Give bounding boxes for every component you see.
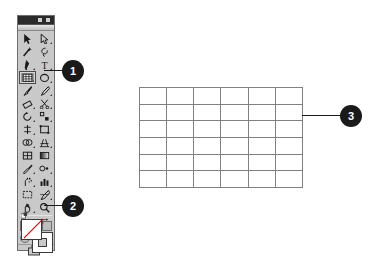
lasso-tool[interactable] [36,45,53,58]
magic-wand-tool-icon [22,46,33,57]
close-widget-icon[interactable] [46,18,50,22]
zoom-tool[interactable] [36,201,53,214]
grid-cell [276,138,303,155]
ellipse-tool[interactable] [36,71,53,84]
grid-cell [140,105,167,122]
tool-flyout-indicator-icon [50,172,52,174]
grid-cell [221,155,248,172]
grid-cell [167,88,194,105]
selection-tool[interactable] [19,32,36,45]
grid-cell [221,88,248,105]
pen-tool[interactable] [19,58,36,71]
pencil-tool-icon [39,85,50,96]
callout-badge-1: 1 [62,60,84,82]
grid-cell [140,155,167,172]
tool-flyout-indicator-icon [50,94,52,96]
column-graph-tool-icon [39,176,50,187]
symbol-sprayer-tool-icon [22,176,33,187]
eraser-tool-icon [22,98,33,109]
grid-cell [276,105,303,122]
column-graph-tool[interactable] [36,175,53,188]
fill-swatch[interactable] [21,219,42,240]
grid-cell [221,138,248,155]
swap-fill-stroke-icon[interactable] [42,218,50,226]
grid-cell [140,88,167,105]
tool-flyout-indicator-icon [50,107,52,109]
eyedropper-tool[interactable] [19,162,36,175]
scissors-tool[interactable] [36,97,53,110]
grid-cell [276,171,303,188]
direct-selection-tool[interactable] [36,32,53,45]
tool-flyout-indicator-icon [50,120,52,122]
toolbox-title-bar[interactable] [18,16,54,25]
tool-flyout-indicator-icon [33,107,35,109]
artboard-tool[interactable] [19,188,36,201]
magic-wand-tool[interactable] [19,45,36,58]
paintbrush-tool[interactable] [19,84,36,97]
scissors-tool-icon [39,98,50,109]
scale-tool[interactable] [36,110,53,123]
grid-cell [194,138,221,155]
toolbox-panel[interactable]: T [17,15,55,251]
rectangular-grid-object[interactable] [139,87,303,188]
selection-tool-icon [22,33,33,44]
grid-cell [167,171,194,188]
symbol-sprayer-tool[interactable] [19,175,36,188]
grid-cell [221,121,248,138]
type-tool-icon: T [39,59,50,70]
slice-tool[interactable] [36,188,53,201]
tool-flyout-indicator-icon [50,198,52,200]
grid-cell [167,105,194,122]
scale-tool-icon [39,111,50,122]
grid-cell [194,121,221,138]
tool-flyout-indicator-icon [33,146,35,148]
blend-tool[interactable] [36,162,53,175]
tool-flyout-indicator-icon [50,42,52,44]
free-transform-tool-icon [39,124,50,135]
mesh-tool[interactable] [19,149,36,162]
grid-cell [249,105,276,122]
tool-flyout-indicator-icon [33,68,35,70]
gradient-tool[interactable] [36,149,53,162]
grid-cell [276,121,303,138]
paintbrush-tool-icon [22,85,33,96]
grid-cell [140,121,167,138]
tool-flyout-indicator-icon [32,80,34,82]
grid-cell [249,155,276,172]
mesh-tool-icon [22,150,33,161]
grid-cell [221,171,248,188]
grid-cell [167,155,194,172]
eyedropper-tool-icon [22,163,33,174]
pencil-tool[interactable] [36,84,53,97]
collapse-widget-icon[interactable] [38,18,42,22]
default-fill-stroke-icon[interactable] [21,212,28,219]
pen-tool-icon [22,59,33,70]
callout-badge-2: 2 [62,195,84,217]
rotate-tool[interactable] [19,110,36,123]
tool-flyout-indicator-icon [50,185,52,187]
width-tool-icon [22,124,33,135]
width-tool[interactable] [19,123,36,136]
free-transform-tool[interactable] [36,123,53,136]
fill-none-indicator-icon [24,219,44,239]
tool-flyout-indicator-icon [50,81,52,83]
grid-cell [249,138,276,155]
ellipse-tool-icon [39,72,50,83]
grid-cell [167,138,194,155]
slice-tool-icon [39,189,50,200]
shape-builder-tool[interactable] [19,136,36,149]
grid-cell [194,88,221,105]
direct-selection-tool-icon [39,33,50,44]
grid-cell [249,88,276,105]
tool-flyout-indicator-icon [33,185,35,187]
svg-text:T: T [41,60,47,70]
grid-cell [249,171,276,188]
gradient-tool-icon [39,150,50,161]
eraser-tool[interactable] [19,97,36,110]
artboard-tool-icon [22,189,33,200]
perspective-grid-tool[interactable] [36,136,53,149]
tool-grid[interactable]: T [18,31,54,214]
rotate-tool-icon [22,111,33,122]
rectangular-grid-tool[interactable] [19,71,36,84]
grid-cell [276,155,303,172]
